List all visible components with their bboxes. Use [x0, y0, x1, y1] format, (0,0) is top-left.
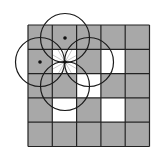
gray-cell	[101, 74, 125, 98]
gray-cell	[101, 25, 125, 49]
center-dot	[38, 60, 42, 64]
white-cell	[101, 98, 125, 122]
gray-cell	[101, 122, 125, 146]
grid-circles-diagram	[0, 0, 160, 164]
gray-cell	[77, 49, 101, 73]
gray-cell	[125, 98, 149, 122]
gray-cell	[125, 49, 149, 73]
gray-cell	[28, 122, 52, 146]
white-cell	[77, 74, 101, 98]
gray-cell	[52, 122, 76, 146]
gray-cell	[125, 25, 149, 49]
gray-cell	[125, 74, 149, 98]
gray-cell	[77, 122, 101, 146]
center-dot	[63, 36, 67, 40]
gray-cell	[77, 98, 101, 122]
gray-cell	[28, 98, 52, 122]
gray-cell	[52, 74, 76, 98]
intersection-dot	[63, 60, 67, 64]
gray-cell	[125, 122, 149, 146]
